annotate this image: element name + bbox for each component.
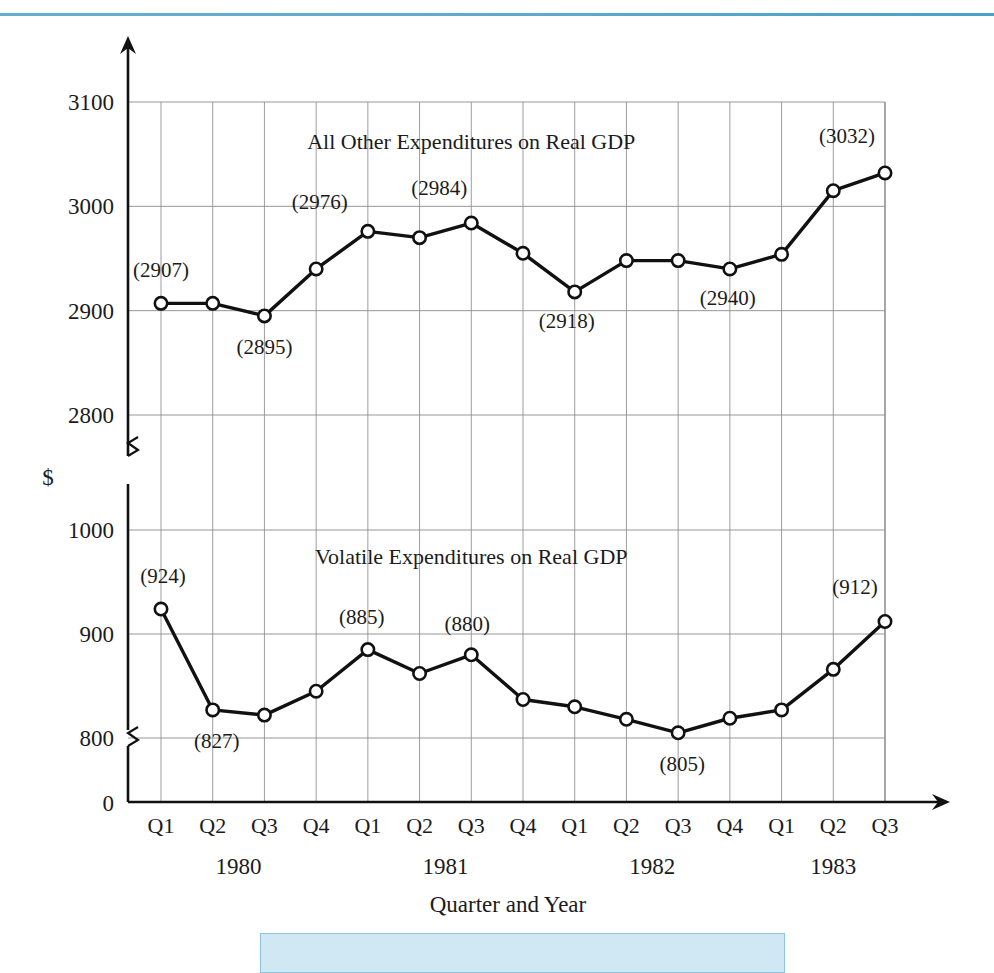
x-tick-label-year: 1981: [422, 854, 468, 879]
data-point-marker: [362, 225, 374, 237]
data-point-value-label: (2984): [411, 176, 467, 200]
x-tick-label-quarter: Q3: [251, 813, 278, 838]
x-tick-label-quarter: Q1: [768, 813, 795, 838]
data-point-marker: [672, 254, 684, 266]
data-point-marker: [724, 712, 736, 724]
series-annotation-label: Volatile Expenditures on Real GDP: [315, 544, 627, 569]
y-tick-label: 3100: [68, 90, 114, 115]
y-tick-label: 2900: [68, 299, 114, 324]
data-point-marker: [827, 663, 839, 675]
gridlines: [128, 102, 885, 802]
data-point-value-label: (885): [339, 605, 385, 629]
data-point-marker: [465, 217, 477, 229]
data-point-marker: [827, 184, 839, 196]
x-tick-label-quarter: Q2: [820, 813, 847, 838]
data-point-marker: [517, 693, 529, 705]
data-point-value-label: (3032): [819, 124, 875, 148]
data-point-value-label: (2918): [539, 309, 595, 333]
x-tick-label-quarter: Q4: [716, 813, 743, 838]
x-tick-label-quarter: Q1: [354, 813, 381, 838]
x-tick-label-quarter: Q3: [458, 813, 485, 838]
x-tick-label-quarter: Q1: [561, 813, 588, 838]
data-point-marker: [672, 727, 684, 739]
data-point-value-label: (2940): [700, 286, 756, 310]
x-axis-title: Quarter and Year: [430, 892, 587, 917]
x-axis-tick-labels: Q1Q2Q3Q4Q1Q2Q3Q4Q1Q2Q3Q4Q1Q2Q31980198119…: [148, 813, 899, 879]
y-tick-label: 3000: [68, 194, 114, 219]
y-tick-label: 900: [80, 622, 115, 647]
caption-box: [260, 933, 785, 973]
data-point-marker: [310, 685, 322, 697]
data-point-marker: [879, 167, 891, 179]
data-point-value-label: (912): [832, 575, 878, 599]
x-tick-label-quarter: Q4: [303, 813, 330, 838]
data-point-marker: [413, 231, 425, 243]
data-point-marker: [517, 247, 529, 259]
data-point-labels: (2907)(2895)(2976)(2984)(2918)(2940)(303…: [133, 124, 878, 776]
x-tick-label-quarter: Q2: [613, 813, 640, 838]
data-point-marker: [879, 615, 891, 627]
y-tick-label: 800: [80, 726, 115, 751]
x-tick-label-quarter: Q4: [510, 813, 537, 838]
y-axis-break-lower-icon: [128, 727, 138, 746]
data-point-marker: [362, 643, 374, 655]
data-point-marker: [569, 701, 581, 713]
data-point-value-label: (2895): [236, 335, 292, 359]
data-point-marker: [155, 297, 167, 309]
y-tick-label: 1000: [68, 518, 114, 543]
x-tick-label-quarter: Q3: [872, 813, 899, 838]
data-point-marker: [310, 263, 322, 275]
data-point-marker: [258, 310, 270, 322]
y-axis-tick-labels: 280029003000310008009001000: [68, 90, 114, 816]
data-point-marker: [155, 603, 167, 615]
data-point-marker: [207, 704, 219, 716]
data-point-value-label: (827): [194, 729, 240, 753]
x-tick-label-quarter: Q3: [665, 813, 692, 838]
data-point-marker: [207, 297, 219, 309]
y-tick-label-zero: 0: [103, 791, 115, 816]
x-tick-label-year: 1980: [216, 854, 262, 879]
y-axis-unit-label: $: [42, 465, 54, 490]
data-point-value-label: (924): [140, 564, 186, 588]
data-point-marker: [620, 713, 632, 725]
y-axis-break-upper-icon: [128, 437, 138, 456]
data-point-marker: [775, 248, 787, 260]
x-tick-label-year: 1982: [629, 854, 675, 879]
x-tick-label-quarter: Q2: [199, 813, 226, 838]
x-tick-label-quarter: Q2: [406, 813, 433, 838]
data-point-marker: [569, 286, 581, 298]
data-point-marker: [465, 649, 477, 661]
data-point-marker: [258, 709, 270, 721]
series-annotation-label: All Other Expenditures on Real GDP: [307, 129, 635, 154]
data-point-marker: [413, 667, 425, 679]
data-point-value-label: (880): [445, 612, 491, 636]
data-point-marker: [724, 263, 736, 275]
data-point-value-label: (2907): [133, 258, 189, 282]
x-tick-label-quarter: Q1: [148, 813, 175, 838]
data-point-marker: [620, 254, 632, 266]
data-point-value-label: (805): [659, 752, 705, 776]
y-tick-label: 2800: [68, 403, 114, 428]
x-tick-label-year: 1983: [810, 854, 856, 879]
data-point-marker: [775, 704, 787, 716]
data-point-value-label: (2976): [292, 190, 348, 214]
